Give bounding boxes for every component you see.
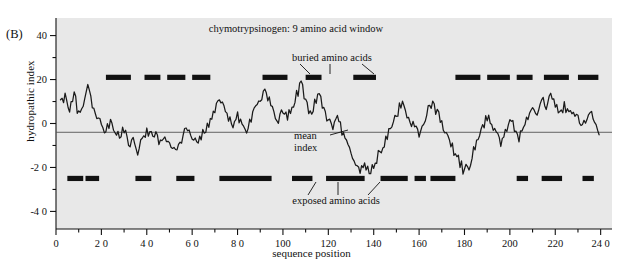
hydropathy-plot: 40200-2 0-4 002 04 06 08 010012014016018…: [0, 0, 623, 271]
x-tick-label: 180: [457, 238, 473, 249]
buried-bar: [353, 75, 376, 80]
buried-bar: [578, 75, 598, 80]
x-tick-label: 160: [411, 238, 427, 249]
y-tick-label: -4 0: [30, 206, 47, 217]
buried-bar: [487, 75, 510, 80]
y-tick-label: -2 0: [30, 162, 47, 173]
chart-title: chymotrypsinogen: 9 amino acid window: [209, 23, 384, 34]
x-tick-label: 2 0: [95, 238, 108, 249]
buried-bar: [106, 75, 131, 80]
x-tick-label: 24 0: [591, 238, 609, 249]
exposed-bar: [415, 176, 426, 181]
buried-bar: [517, 75, 533, 80]
exposed-bar: [67, 176, 83, 181]
y-tick-label: 20: [37, 74, 48, 85]
exposed-bar: [517, 176, 528, 181]
exposed-annotation: exposed amino acids: [292, 195, 379, 206]
buried-bar: [145, 75, 161, 80]
x-tick-label: 120: [320, 238, 336, 249]
exposed-bar: [176, 176, 194, 181]
mean-annotation-line1: mean: [294, 130, 317, 141]
exposed-bar: [86, 176, 100, 181]
buried-bar: [192, 75, 210, 80]
y-tick-label: 0: [42, 118, 47, 129]
exposed-bar: [430, 176, 455, 181]
x-tick-label: 200: [502, 238, 518, 249]
x-tick-label: 140: [366, 238, 382, 249]
x-tick-label: 8 0: [231, 238, 244, 249]
x-tick-label: 4 0: [140, 238, 153, 249]
x-tick-label: 6 0: [186, 238, 199, 249]
exposed-bar: [326, 176, 365, 181]
exposed-bar: [381, 176, 408, 181]
buried-bar: [544, 75, 569, 80]
exposed-bar: [292, 176, 312, 181]
y-tick-label: 40: [37, 30, 48, 41]
buried-annotation: buried amino acids: [292, 52, 372, 63]
exposed-bar: [219, 176, 271, 181]
buried-bar: [167, 75, 185, 80]
exposed-bar: [542, 176, 562, 181]
buried-bar: [455, 75, 480, 80]
exposed-bar: [582, 176, 593, 181]
mean-annotation-line2: index: [294, 142, 318, 153]
x-tick-label: 0: [53, 238, 58, 249]
buried-bar: [263, 75, 288, 80]
x-tick-label: 220: [547, 238, 563, 249]
x-tick-label: 100: [275, 238, 291, 249]
figure-root: (B) hydropathic index sequence position …: [0, 0, 623, 271]
buried-bar: [306, 75, 322, 80]
exposed-bar: [135, 176, 151, 181]
